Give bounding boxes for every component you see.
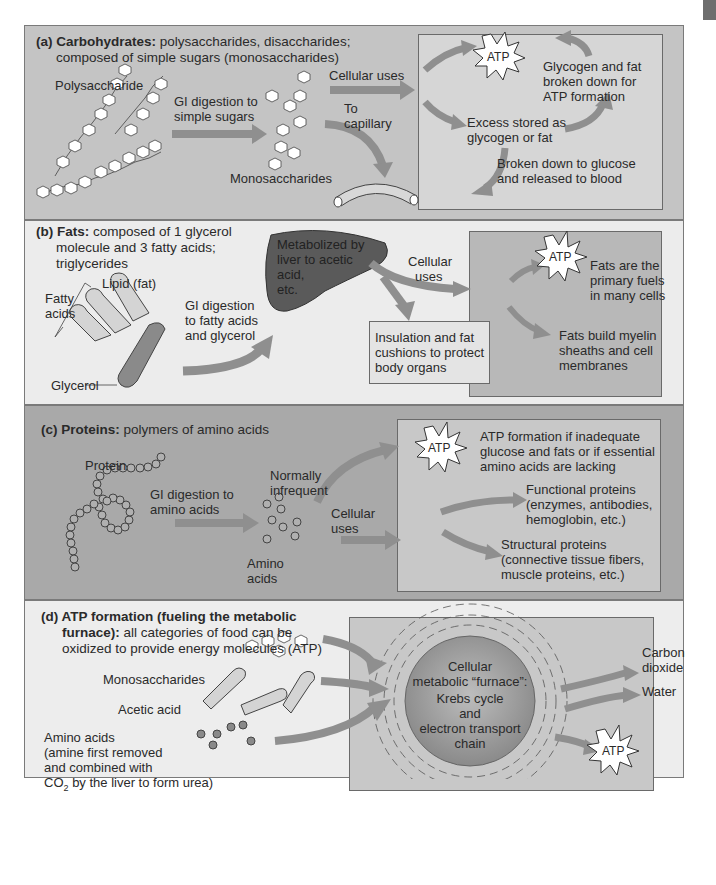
cellular-uses-proteins-label-2: uses xyxy=(331,521,358,536)
panel-proteins: (c) Proteins: polymers of amino acids Pr… xyxy=(24,405,684,600)
polysaccharide-label: Polysaccharide xyxy=(55,78,143,93)
myelin-label-2: sheaths and cell xyxy=(559,343,653,358)
glycogen-breakdown-label-3: ATP formation xyxy=(543,89,625,104)
amino-acids-label-4: CO2 by the liver to form urea) xyxy=(44,775,213,796)
primary-fuels-label-3: in many cells xyxy=(590,288,665,303)
structural-proteins-label-3: muscle proteins, etc.) xyxy=(501,567,625,582)
carbon-dioxide-label: Carbon xyxy=(642,645,685,660)
to-capillary-label: To xyxy=(344,101,358,116)
excess-stored-label-2: glycogen or fat xyxy=(467,130,552,145)
amino-acids-label-2: acids xyxy=(247,571,277,586)
amino-acids-label: Amino xyxy=(247,556,284,571)
atp-label: ATP xyxy=(487,50,509,65)
liver-metabolism-label: Metabolized by xyxy=(277,237,364,252)
atp-formation-label-3: amino acids are lacking xyxy=(480,459,616,474)
cellular-uses-proteins-label: Cellular xyxy=(331,506,375,521)
myelin-label: Fats build myelin xyxy=(559,328,657,343)
glycogen-breakdown-label: Glycogen and fat xyxy=(543,59,641,74)
atp-label: ATP xyxy=(428,441,450,456)
fats-desc: molecule and 3 fatty acids; xyxy=(56,240,216,256)
cellular-uses-label: Cellular uses xyxy=(329,68,404,83)
electron-transport-label: electron transport xyxy=(410,721,530,736)
furnace-label-2: metabolic “furnace”: xyxy=(410,674,530,689)
normally-infrequent-label: Normally xyxy=(270,468,321,483)
monosaccharides-label: Monosaccharides xyxy=(103,672,205,687)
furnace-and-label: and xyxy=(410,706,530,721)
protein-label: Protein xyxy=(85,458,126,473)
panel-carbohydrates: (a) Carbohydrates: polysaccharides, disa… xyxy=(24,25,684,220)
proteins-heading: (c) Proteins: polymers of amino acids xyxy=(41,422,269,438)
atp-formation-desc-2: oxidized to provide energy molecules (AT… xyxy=(62,641,322,657)
cellular-uses-fats-label-2: uses xyxy=(415,269,442,284)
functional-proteins-label: Functional proteins xyxy=(526,482,636,497)
carbohydrates-desc: composed of simple sugars (monosaccharid… xyxy=(56,50,339,66)
normally-infrequent-label-2: infrequent xyxy=(270,483,328,498)
amino-acid-dots xyxy=(197,721,255,749)
glucose-release-label: Broken down to glucose xyxy=(497,156,636,171)
functional-proteins-label-3: hemoglobin, etc.) xyxy=(526,512,626,527)
furnace-label: Cellular xyxy=(410,659,530,674)
liver-metabolism-label-3: acid, xyxy=(277,267,304,282)
primary-fuels-label: Fats are the xyxy=(590,258,659,273)
fats-desc-2: triglycerides xyxy=(56,256,128,272)
glycogen-breakdown-label-2: broken down for xyxy=(543,74,636,89)
lipid-label: Lipid (fat) xyxy=(102,276,156,291)
page-edge-tab xyxy=(703,0,716,20)
carbohydrates-heading: (a) Carbohydrates: polysaccharides, disa… xyxy=(36,34,350,50)
functional-proteins-label-2: (enzymes, antibodies, xyxy=(526,497,652,512)
gi-digestion-label: GI digestion to xyxy=(174,94,258,109)
gi-digestion-proteins-label-2: amino acids xyxy=(150,502,219,517)
electron-transport-label-2: chain xyxy=(410,736,530,751)
atp-formation-label-2: glucose and fats or if essential xyxy=(480,444,655,459)
structural-proteins-label: Structural proteins xyxy=(501,537,607,552)
gi-digestion-fats-label: GI digestion xyxy=(185,298,254,313)
panel-atp-formation: (d) ATP formation (fueling the metabolic… xyxy=(24,600,684,778)
panel-fats: (b) Fats: composed of 1 glycerol molecul… xyxy=(24,220,684,405)
myelin-label-3: membranes xyxy=(559,358,628,373)
capillary-icon xyxy=(334,184,418,207)
excess-stored-label: Excess stored as xyxy=(467,115,566,130)
acetic-acid-label: Acetic acid xyxy=(118,702,181,717)
structural-proteins-label-2: (connective tissue fibers, xyxy=(501,552,644,567)
liver-metabolism-label-2: liver to acetic xyxy=(277,252,353,267)
fats-heading: (b) Fats: composed of 1 glycerol xyxy=(36,224,232,240)
water-label: Water xyxy=(642,684,676,699)
amino-acids-label-3: and combined with xyxy=(44,760,152,775)
atp-formation-desc: furnace): all categories of food can be xyxy=(62,625,292,641)
amino-acids-label: Amino acids xyxy=(44,730,115,745)
atp-formation-label: ATP formation if inadequate xyxy=(480,429,640,444)
atp-formation-heading: (d) ATP formation (fueling the metabolic xyxy=(41,609,297,625)
liver-metabolism-label-4: etc. xyxy=(277,282,298,297)
primary-fuels-label-2: primary fuels xyxy=(590,273,664,288)
fatty-acids-label-2: acids xyxy=(45,306,75,321)
insulation-label-3: body organs xyxy=(375,360,447,375)
fatty-acids-label: Fatty xyxy=(45,291,74,306)
glucose-release-label-2: and released to blood xyxy=(497,171,622,186)
gi-digestion-fats-label-3: and glycerol xyxy=(185,328,255,343)
insulation-label-2: cushions to protect xyxy=(375,345,484,360)
amino-acids-label-2: (amine first removed xyxy=(44,745,162,760)
insulation-label: Insulation and fat xyxy=(375,330,474,345)
gi-digestion-proteins-label: GI digestion to xyxy=(150,487,234,502)
cellular-uses-fats-label: Cellular xyxy=(408,254,452,269)
monosaccharides-label: Monosaccharides xyxy=(230,171,332,186)
atp-label: ATP xyxy=(602,744,624,759)
carbon-dioxide-label-2: dioxide xyxy=(642,660,683,675)
gi-digestion-fats-label-2: to fatty acids xyxy=(185,313,258,328)
gi-digestion-label-2: simple sugars xyxy=(174,109,254,124)
acetic-acid-icon xyxy=(203,668,315,715)
to-capillary-label-2: capillary xyxy=(344,116,392,131)
atp-label: ATP xyxy=(549,250,571,265)
glycerol-label: Glycerol xyxy=(51,378,99,393)
krebs-cycle-label: Krebs cycle xyxy=(410,691,530,706)
